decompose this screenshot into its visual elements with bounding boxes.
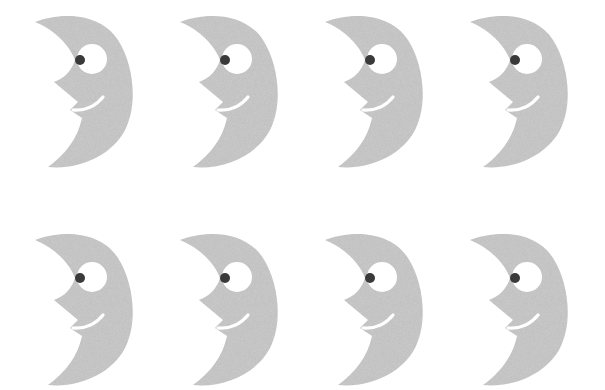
moon-icon	[30, 10, 140, 175]
pupil	[75, 273, 85, 283]
moon-body	[35, 234, 133, 385]
pupil	[510, 273, 520, 283]
moon-icon	[465, 10, 575, 175]
crescent-moon-face-r1-c1	[175, 228, 285, 390]
moon-body	[325, 16, 423, 167]
pupil	[220, 55, 230, 65]
pupil	[220, 273, 230, 283]
moon-icon	[175, 228, 285, 390]
moon-body	[470, 16, 568, 167]
crescent-moon-face-r1-c2	[320, 228, 430, 390]
moon-icon	[175, 10, 285, 175]
crescent-moon-face-r0-c3	[465, 10, 575, 175]
moon-body	[470, 234, 568, 385]
crescent-moon-face-r1-c0	[30, 228, 140, 390]
moon-icon	[320, 10, 430, 175]
moon-body	[325, 234, 423, 385]
moon-body	[35, 16, 133, 167]
moon-body	[180, 16, 278, 167]
moon-icon	[465, 228, 575, 390]
crescent-moon-face-r0-c0	[30, 10, 140, 175]
pupil	[365, 55, 375, 65]
moon-body	[180, 234, 278, 385]
crescent-moon-face-r1-c3	[465, 228, 575, 390]
pupil	[75, 55, 85, 65]
pupil	[510, 55, 520, 65]
moon-icon	[30, 228, 140, 390]
moon-icon	[320, 228, 430, 390]
crescent-moon-face-r0-c1	[175, 10, 285, 175]
crescent-moon-face-r0-c2	[320, 10, 430, 175]
pupil	[365, 273, 375, 283]
